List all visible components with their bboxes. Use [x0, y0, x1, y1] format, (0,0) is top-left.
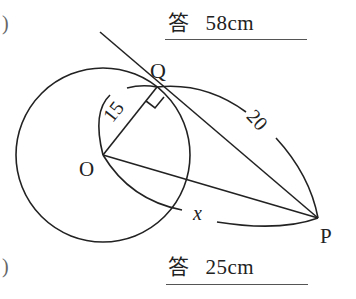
paren-bottom: ): [2, 255, 9, 278]
label-p: P: [320, 224, 332, 248]
brace-20b: [276, 138, 318, 218]
tangent-line: [100, 32, 318, 218]
answer-value: 25cm: [206, 255, 255, 279]
answer-bottom: 答25cm: [168, 250, 254, 280]
label-x: x: [192, 202, 202, 224]
label-q: Q: [150, 58, 166, 83]
answer-underline: [166, 284, 308, 285]
brace-xb: [217, 218, 318, 226]
answer-kanji: 答: [168, 255, 190, 279]
brace-x: [103, 155, 182, 210]
label-15: 15: [98, 97, 128, 126]
label-20: 20: [243, 105, 273, 135]
segment-op: [103, 155, 318, 218]
brace-15b: [127, 86, 157, 88]
label-o: O: [79, 157, 94, 181]
